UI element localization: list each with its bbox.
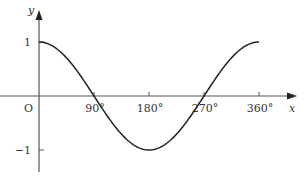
y-tick-label: −1 bbox=[15, 144, 31, 157]
origin-label: O bbox=[24, 102, 33, 115]
x-axis-label: x bbox=[289, 102, 296, 115]
y-axis-arrow-icon bbox=[36, 10, 43, 20]
x-tick-label: 180° bbox=[137, 102, 164, 115]
x-tick-label: 360° bbox=[247, 102, 274, 115]
cosine-graph: 90°180°270°360° 1−1 y x O bbox=[0, 0, 306, 179]
x-axis-arrow-icon bbox=[287, 93, 297, 100]
y-axis-label: y bbox=[27, 4, 35, 17]
y-tick-label: 1 bbox=[24, 36, 31, 49]
